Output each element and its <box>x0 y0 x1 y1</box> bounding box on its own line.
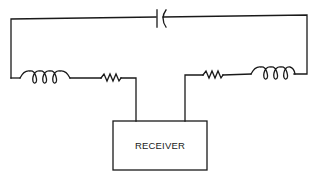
receiver-block: RECEIVER <box>113 121 207 170</box>
circuit-schematic: RECEIVER <box>0 0 313 179</box>
resistor-right-symbol <box>203 71 223 78</box>
receiver-label: RECEIVER <box>135 140 185 151</box>
right-branch <box>185 67 295 121</box>
capacitor-symbol <box>157 10 166 27</box>
inductor-right-symbol <box>251 67 295 79</box>
top-wire-left <box>11 17 156 78</box>
resistor-left-symbol <box>101 74 121 81</box>
circuit-diagram: RECEIVER <box>0 0 313 179</box>
left-branch <box>11 71 136 121</box>
top-wire-right <box>163 15 307 74</box>
inductor-left-symbol <box>20 71 70 83</box>
